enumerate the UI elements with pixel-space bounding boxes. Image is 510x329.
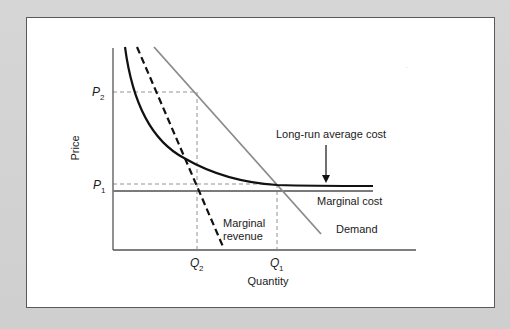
demand-label: Demand — [336, 223, 378, 235]
svg-text:Q: Q — [190, 256, 199, 270]
y-axis-label: Price — [69, 135, 81, 160]
svg-text:1: 1 — [279, 264, 284, 273]
p1-label: P 1 — [93, 178, 106, 195]
svg-text:P: P — [93, 178, 101, 192]
p2-label: P 2 — [92, 85, 105, 102]
natural-monopoly-diagram: Price Quantity P 2 P 1 Q 2 Q 1 Long-run … — [0, 0, 510, 329]
svg-text:P: P — [92, 85, 100, 99]
demand-curve — [154, 47, 321, 234]
x-axis-label: Quantity — [248, 275, 289, 287]
marginal-revenue-label-line1: Marginal — [223, 217, 265, 229]
stray-mark: · — [406, 64, 408, 70]
page: Price Quantity P 2 P 1 Q 2 Q 1 Long-run … — [0, 0, 510, 329]
svg-text:1: 1 — [101, 186, 106, 195]
svg-text:2: 2 — [199, 264, 204, 273]
svg-text:2: 2 — [100, 93, 105, 102]
q2-label: Q 2 — [190, 256, 204, 273]
lrac-curve — [125, 47, 373, 186]
lrac-arrow-icon — [322, 145, 330, 183]
lrac-label: Long-run average cost — [276, 128, 386, 140]
q1-label: Q 1 — [270, 256, 284, 273]
marginal-revenue-label-line2: revenue — [223, 230, 263, 242]
marginal-cost-label: Marginal cost — [317, 195, 382, 207]
svg-text:Q: Q — [270, 256, 279, 270]
